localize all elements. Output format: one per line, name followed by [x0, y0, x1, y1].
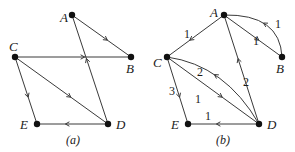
- edge-weight-label: 1: [253, 34, 259, 48]
- node-a: [221, 12, 227, 18]
- node-e: [34, 121, 40, 127]
- node-label-b: B: [126, 61, 134, 76]
- node-c: [12, 54, 18, 60]
- node-label-e: E: [19, 117, 28, 132]
- node-label-e: E: [170, 117, 179, 132]
- edge-weight-label: 3: [169, 84, 175, 98]
- node-label-b: B: [276, 61, 284, 76]
- node-label-d: D: [115, 117, 126, 132]
- figure-caption-b: (b): [216, 133, 230, 147]
- node-c: [164, 54, 170, 60]
- node-e: [185, 121, 191, 127]
- edge-d-to-a: [72, 15, 108, 124]
- node-b: [279, 54, 285, 60]
- edge-c-to-d: [167, 57, 259, 124]
- graph-a: ABCDE(a): [9, 10, 134, 147]
- edge-c-to-d: [15, 57, 108, 124]
- edge-d-to-a: [224, 15, 259, 124]
- edge-weight-label: 1: [205, 109, 211, 123]
- directed-graph-figure: ABCDE(a) 11122131ABCDE(b): [0, 0, 295, 152]
- edge-weight-label: 1: [195, 92, 201, 106]
- edge-weight-label: 2: [197, 65, 203, 79]
- node-label-c: C: [9, 39, 18, 54]
- node-label-c: C: [153, 55, 162, 70]
- node-a: [69, 12, 75, 18]
- figure-caption-a: (a): [66, 133, 80, 147]
- edge-weight-label: 2: [243, 75, 249, 89]
- node-d: [256, 121, 262, 127]
- edge-a-to-c: [167, 15, 224, 57]
- edge-weight-label: 1: [184, 27, 190, 41]
- node-label-a: A: [209, 5, 218, 20]
- node-b: [128, 54, 134, 60]
- edge-c-to-e: [15, 57, 37, 124]
- edge-weight-label: 1: [275, 17, 281, 31]
- node-d: [105, 121, 111, 127]
- node-label-a: A: [59, 10, 68, 25]
- edge-a-to-b: [72, 15, 131, 57]
- graph-b: 11122131ABCDE(b): [153, 5, 285, 147]
- node-label-d: D: [266, 117, 277, 132]
